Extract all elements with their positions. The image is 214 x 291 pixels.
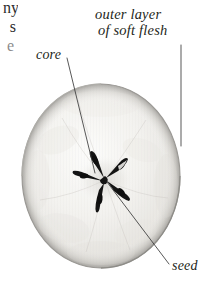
label-outer-layer-line-2: of soft flesh: [98, 22, 167, 38]
label-core: core: [36, 47, 61, 63]
apple-cross-section-illustration: [0, 0, 214, 291]
label-seed: seed: [172, 258, 198, 274]
figure-page: ny s e: [0, 0, 214, 291]
label-outer-layer-line-1: outer layer: [95, 6, 161, 22]
label-outer-layer: outer layer of soft flesh: [95, 6, 167, 38]
